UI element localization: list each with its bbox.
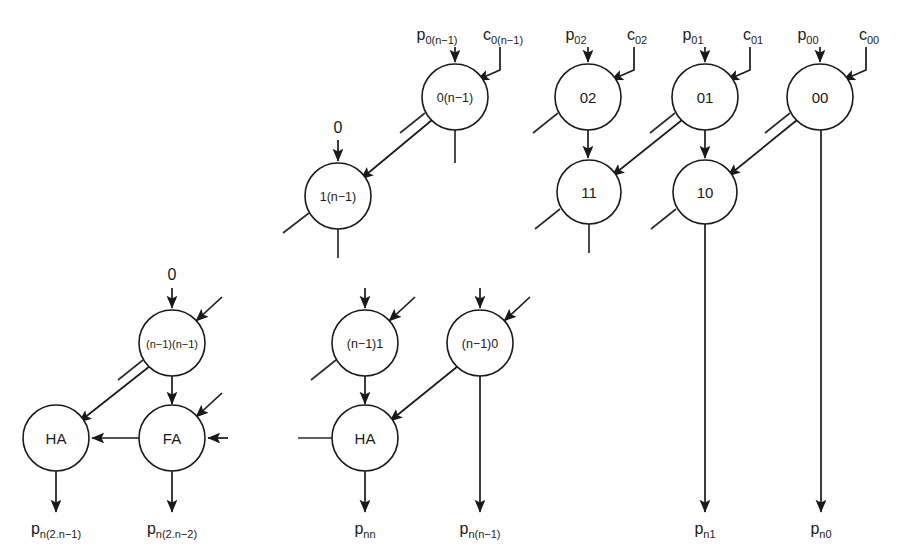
input-label-lbl_c02: c02 bbox=[627, 26, 647, 46]
node-label-n_11: 11 bbox=[581, 184, 597, 201]
node-label-n_1n1: 1(n−1) bbox=[320, 190, 356, 204]
node-label-n_0n1: 0(n−1) bbox=[437, 91, 473, 105]
node-label-n_fa_l: FA bbox=[163, 430, 181, 447]
input-label-lbl_p0n1: p0(n−1) bbox=[416, 26, 457, 46]
stub-line bbox=[533, 113, 558, 133]
node-label-n_02: 02 bbox=[580, 89, 597, 106]
stub-line bbox=[650, 113, 675, 133]
output-label-out_pnn: pnn bbox=[354, 520, 375, 540]
constant-label-const_zero_left: 0 bbox=[168, 266, 177, 283]
edge-e_fa_in_diag bbox=[196, 393, 222, 417]
node-label-n_10: 10 bbox=[697, 184, 714, 201]
edge-e_nn10_in_diag bbox=[504, 297, 530, 321]
output-label-out_pnn1: pn(n−1) bbox=[459, 520, 500, 540]
stub-line bbox=[118, 360, 143, 380]
edge-e_0n1_to_1n1 bbox=[361, 120, 432, 179]
edge-e_c02_in bbox=[611, 47, 634, 80]
stub-line bbox=[651, 209, 676, 229]
input-label-lbl_c00: c00 bbox=[859, 26, 879, 46]
edge-e_nn11_in_diag bbox=[389, 297, 415, 321]
node-label-n_nn11: (n−1)1 bbox=[347, 337, 384, 351]
input-label-lbl_c0n1: c0(n−1) bbox=[483, 26, 523, 46]
stub-lines-layer bbox=[118, 113, 790, 438]
node-label-n_nn1nn1: (n−1)(n−1) bbox=[146, 338, 198, 350]
node-label-n_00: 00 bbox=[812, 89, 829, 106]
nodes-layer: 0(n−1)0201001(n−1)1110(n−1)(n−1)(n−1)1(n… bbox=[23, 64, 853, 471]
stub-line bbox=[311, 360, 336, 380]
stub-line bbox=[283, 213, 309, 233]
edge-e_nn1nn1_to_ha bbox=[79, 366, 150, 422]
edge-e_01_to_11 bbox=[612, 120, 682, 176]
node-label-n_ha_l: HA bbox=[46, 430, 67, 447]
output-label-out_pn1: pn1 bbox=[694, 520, 715, 540]
output-label-out_pn2n1: pn(2.n−1) bbox=[31, 520, 81, 540]
edge-e_nn1nn1_carryin bbox=[196, 297, 222, 321]
edge-e_00_to_10 bbox=[728, 120, 797, 176]
stub-line bbox=[765, 113, 790, 133]
node-label-n_ha_m: HA bbox=[355, 430, 376, 447]
node-label-n_nn10: (n−1)0 bbox=[462, 337, 499, 351]
diagram-canvas: 0(n−1)0201001(n−1)1110(n−1)(n−1)(n−1)1(n… bbox=[0, 0, 901, 557]
output-label-out_pn2n2: pn(2.n−2) bbox=[147, 520, 197, 540]
input-label-lbl_p00: p00 bbox=[797, 26, 818, 46]
node-label-n_01: 01 bbox=[697, 89, 714, 106]
output-label-out_pn0: pn0 bbox=[810, 520, 831, 540]
stub-line bbox=[535, 209, 560, 229]
constant-label-const_zero_top: 0 bbox=[334, 119, 343, 136]
edge-e_c00_in bbox=[843, 47, 866, 80]
edge-e_nn10_to_ha bbox=[390, 366, 458, 421]
diagram-root: 0(n−1)0201001(n−1)1110(n−1)(n−1)(n−1)1(n… bbox=[0, 0, 901, 557]
input-label-lbl_c01: c01 bbox=[743, 26, 763, 46]
input-label-lbl_p01: p01 bbox=[682, 26, 703, 46]
input-label-lbl_p02: p02 bbox=[565, 26, 586, 46]
